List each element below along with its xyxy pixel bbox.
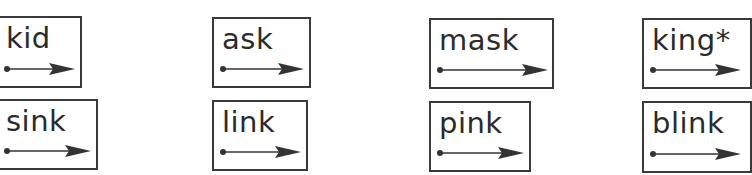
- sound-arrow-icon: [649, 63, 743, 77]
- word-label: pink: [439, 106, 503, 140]
- sound-arrow-icon: [3, 62, 77, 76]
- word-card-sink: sink: [0, 99, 98, 170]
- word-card-blink: blink: [642, 101, 752, 173]
- word-label: blink: [652, 106, 724, 140]
- word-card-mask: mask: [429, 18, 554, 89]
- word-label: sink: [6, 104, 66, 138]
- sound-arrow-icon: [219, 145, 303, 159]
- sound-arrow-icon: [436, 63, 550, 77]
- word-label: mask: [439, 23, 519, 57]
- word-card-pink: pink: [429, 101, 531, 172]
- word-card-ask: ask: [212, 17, 311, 88]
- word-card-link: link: [212, 100, 308, 171]
- sound-arrow-icon: [436, 146, 526, 160]
- word-card-kid: kid: [0, 16, 82, 88]
- word-label: king*: [652, 23, 731, 57]
- word-label: link: [222, 105, 275, 139]
- sound-arrow-icon: [3, 144, 93, 158]
- sound-arrow-icon: [219, 62, 306, 76]
- word-label: ask: [222, 22, 273, 56]
- sound-arrow-icon: [649, 147, 743, 161]
- word-label: kid: [6, 21, 51, 55]
- word-card-king: king*: [642, 18, 752, 89]
